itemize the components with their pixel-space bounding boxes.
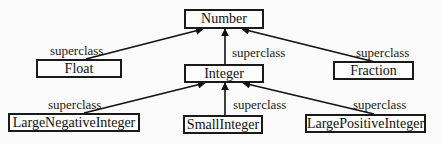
node-fraction: Fraction — [333, 61, 414, 80]
node-integer: Integer — [184, 64, 264, 83]
edge-float-to-number — [86, 29, 203, 59]
edge-largenegativeinteger-to-integer — [84, 83, 205, 113]
node-number-label: Number — [201, 12, 247, 26]
node-fraction-label: Fraction — [350, 64, 397, 78]
edge-label-largenegativeinteger-integer: superclass — [48, 98, 101, 111]
node-float-label: Float — [65, 62, 94, 76]
edge-label-fraction-number: superclass — [356, 46, 409, 59]
edge-label-smallinteger-integer: superclass — [233, 98, 286, 111]
edge-label-largepositiveinteger-integer: superclass — [353, 98, 406, 111]
edge-label-float-number: superclass — [50, 44, 103, 57]
node-large-negative-integer-label: LargeNegativeInteger — [13, 116, 136, 130]
node-float: Float — [36, 59, 122, 78]
node-number: Number — [184, 9, 264, 29]
node-integer-label: Integer — [204, 67, 244, 81]
edge-label-integer-number: superclass — [232, 46, 285, 59]
class-hierarchy-diagram: Number Float Integer Fraction LargeNegat… — [0, 0, 442, 144]
node-large-positive-integer-label: LargePositiveInteger — [307, 117, 424, 131]
node-large-negative-integer: LargeNegativeInteger — [8, 113, 140, 132]
node-small-integer-label: SmallInteger — [187, 118, 259, 132]
node-large-positive-integer: LargePositiveInteger — [305, 114, 426, 133]
node-small-integer: SmallInteger — [183, 115, 263, 134]
